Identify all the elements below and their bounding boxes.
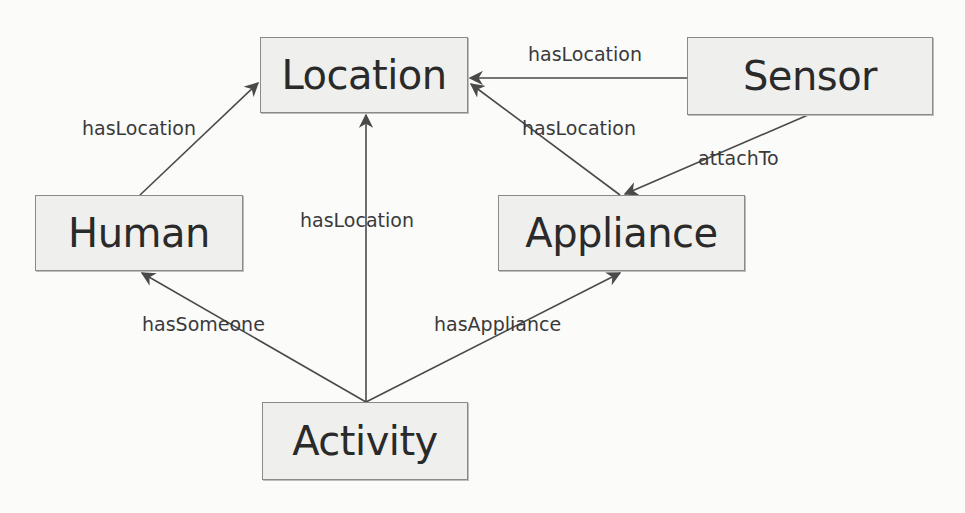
node-appliance: Appliance — [498, 195, 745, 271]
node-location: Location — [260, 37, 468, 113]
node-human: Human — [35, 195, 243, 271]
node-sensor-label: Sensor — [743, 53, 877, 99]
edge-label-appliance-location: hasLocation — [522, 119, 636, 138]
edge-appliance-location — [471, 84, 620, 195]
node-location-label: Location — [281, 52, 446, 98]
edge-human-location — [140, 83, 258, 195]
edge-activity-human — [142, 273, 366, 402]
node-activity-label: Activity — [292, 418, 438, 464]
node-human-label: Human — [68, 210, 210, 256]
node-appliance-label: Appliance — [525, 210, 717, 256]
node-activity: Activity — [262, 402, 468, 480]
ontology-diagram: Location Sensor Human Appliance Activity… — [0, 0, 965, 513]
node-sensor: Sensor — [687, 37, 933, 115]
edge-label-human-location: hasLocation — [82, 119, 196, 138]
edge-label-sensor-appliance: attachTo — [698, 149, 779, 168]
edge-label-sensor-location: hasLocation — [528, 45, 642, 64]
edge-label-activity-location: hasLocation — [300, 211, 414, 230]
edge-activity-appliance — [366, 273, 620, 402]
edge-label-activity-appliance: hasAppliance — [434, 315, 561, 334]
edge-label-activity-human: hasSomeone — [142, 315, 265, 334]
